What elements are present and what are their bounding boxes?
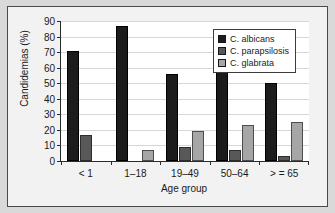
x-axis-title: Age group (60, 183, 308, 194)
legend-swatch-icon (218, 35, 226, 43)
bar-group-bars (111, 21, 161, 161)
legend-item[interactable]: C. albicans (218, 33, 289, 45)
y-tick-label: 90 (44, 16, 55, 27)
figure-canvas: Candidemias (%) 0102030405060708090 < 11… (0, 0, 335, 213)
x-tick-mark (308, 161, 309, 165)
x-tick-label: 1–18 (124, 168, 146, 179)
plot-wrapper: Candidemias (%) 0102030405060708090 < 11… (8, 7, 327, 206)
legend-swatch-icon (218, 47, 226, 55)
bar (179, 147, 191, 161)
bar (166, 74, 178, 161)
y-tick-label: 70 (44, 47, 55, 58)
bar (229, 150, 241, 161)
x-tick-label: > = 65 (270, 168, 298, 179)
bar (278, 156, 290, 161)
x-tick-label: 50–64 (221, 168, 249, 179)
bar (80, 135, 92, 161)
y-axis-title: Candidemias (%) (19, 9, 30, 129)
x-tick-mark (259, 161, 260, 165)
bar-group: 19–49 (160, 21, 210, 161)
y-tick-label: 50 (44, 78, 55, 89)
x-tick-mark (210, 161, 211, 165)
y-tick-label: 80 (44, 31, 55, 42)
bar-group: 1–18 (111, 21, 161, 161)
legend-swatch-icon (218, 59, 226, 67)
y-tick-label: 60 (44, 62, 55, 73)
x-tick-mark (61, 161, 62, 165)
x-tick-mark (111, 161, 112, 165)
chart-frame: Candidemias (%) 0102030405060708090 < 11… (7, 6, 328, 207)
bar (216, 69, 228, 161)
legend-label: C. glabrata (230, 58, 274, 68)
legend-item[interactable]: C. parapsilosis (218, 45, 289, 57)
bar (142, 150, 154, 161)
bar-group: < 1 (61, 21, 111, 161)
x-tick-label: 19–49 (171, 168, 199, 179)
bar-group-bars (61, 21, 111, 161)
bar (67, 51, 79, 161)
bar-group-bars (160, 21, 210, 161)
legend-label: C. albicans (230, 34, 275, 44)
legend-item[interactable]: C. glabrata (218, 57, 289, 69)
y-tick-label: 40 (44, 93, 55, 104)
bar (291, 122, 303, 161)
y-tick-label: 10 (44, 140, 55, 151)
y-tick-label: 20 (44, 124, 55, 135)
bar (265, 83, 277, 161)
bar (192, 131, 204, 161)
x-tick-label: < 1 (79, 168, 93, 179)
legend-label: C. parapsilosis (230, 46, 289, 56)
bar (242, 125, 254, 161)
y-tick-label: 0 (49, 156, 55, 167)
y-tick-label: 30 (44, 109, 55, 120)
x-tick-mark (160, 161, 161, 165)
chart-legend: C. albicansC. parapsilosisC. glabrata (213, 29, 296, 73)
bar (116, 26, 128, 161)
